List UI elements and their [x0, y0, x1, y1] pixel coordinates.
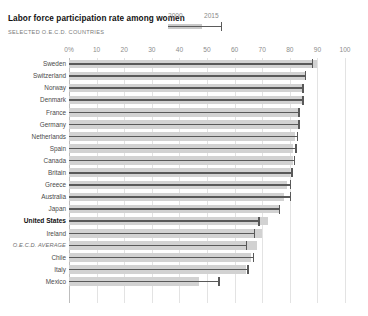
- marker-2015: [254, 229, 256, 238]
- chart-row: Australia: [0, 191, 368, 203]
- marker-2015: [258, 217, 260, 226]
- marker-2015: [290, 180, 292, 189]
- axis-tick-label-50: 50: [203, 46, 210, 53]
- row-label-britain: Britain: [48, 169, 66, 176]
- row-label-ireland: Ireland: [46, 230, 66, 237]
- marker-2015: [298, 108, 300, 117]
- chart-row: Switzerland: [0, 70, 368, 82]
- line-2015: [69, 184, 290, 186]
- row-label-denmark: Denmark: [40, 96, 66, 103]
- axis-tick-label-40: 40: [176, 46, 183, 53]
- chart-row: United States: [0, 215, 368, 227]
- line-2015: [69, 233, 254, 235]
- axis-tick-label-30: 30: [148, 46, 155, 53]
- marker-2015: [290, 192, 292, 201]
- line-2015: [69, 136, 297, 138]
- marker-2015: [253, 253, 255, 262]
- chart-row: Denmark: [0, 94, 368, 106]
- chart-row: Greece: [0, 179, 368, 191]
- line-2015: [69, 257, 253, 259]
- row-label-germany: Germany: [40, 121, 66, 128]
- chart-row: Spain: [0, 143, 368, 155]
- chart-row: O.E.C.D. AVERAGE: [0, 240, 368, 252]
- chart-row: Norway: [0, 82, 368, 94]
- marker-2015: [297, 132, 299, 141]
- line-2015: [69, 220, 258, 222]
- line-2015: [69, 269, 247, 271]
- x-axis-tick-labels: 0%102030405060708090100: [0, 46, 368, 56]
- line-2015: [69, 160, 294, 162]
- page-title: Labor force participation rate among wom…: [8, 14, 185, 23]
- row-label-united-states: United States: [24, 217, 66, 224]
- marker-2015: [298, 120, 300, 129]
- chart-row: Sweden: [0, 58, 368, 70]
- marker-2015: [302, 84, 304, 93]
- chart-row: Netherlands: [0, 131, 368, 143]
- marker-2015: [247, 265, 249, 274]
- line-2015: [69, 112, 298, 114]
- row-label-spain: Spain: [50, 145, 66, 152]
- line-2015: [69, 75, 305, 77]
- axis-tick-label-90: 90: [314, 46, 321, 53]
- chart-row: Britain: [0, 167, 368, 179]
- legend-label-2015: 2015: [204, 12, 219, 19]
- marker-2015: [218, 277, 220, 286]
- axis-tick-label-70: 70: [259, 46, 266, 53]
- marker-2015: [302, 96, 304, 105]
- row-label-greece: Greece: [45, 181, 66, 188]
- line-2015: [69, 208, 279, 210]
- marker-2015: [295, 144, 297, 153]
- chart-row: Ireland: [0, 227, 368, 239]
- line-2015: [69, 63, 312, 65]
- row-label-sweden: Sweden: [43, 60, 66, 67]
- chart-row: Chile: [0, 252, 368, 264]
- legend-swatch-2015-line: [168, 26, 222, 27]
- row-label-canada: Canada: [44, 157, 66, 164]
- line-2015: [69, 87, 302, 89]
- row-label-norway: Norway: [44, 84, 66, 91]
- line-2015: [69, 99, 302, 101]
- legend-swatch-2015-cap: [221, 22, 222, 31]
- row-label-o-e-c-d-average: O.E.C.D. AVERAGE: [13, 242, 66, 248]
- chart-row: Germany: [0, 119, 368, 131]
- row-label-netherlands: Netherlands: [32, 133, 66, 140]
- marker-2015: [246, 241, 248, 250]
- chart-row: Japan: [0, 203, 368, 215]
- line-2015: [69, 172, 291, 174]
- chart-row: Italy: [0, 264, 368, 276]
- marker-2015: [294, 156, 296, 165]
- legend-label-2000: 2000: [168, 12, 183, 19]
- row-label-japan: Japan: [49, 205, 66, 212]
- chart-container: Labor force participation rate among wom…: [0, 0, 368, 316]
- line-2015: [69, 196, 290, 198]
- marker-2015: [291, 168, 293, 177]
- chart-row: France: [0, 106, 368, 118]
- marker-2015: [312, 59, 314, 68]
- line-2015: [69, 148, 295, 150]
- row-label-australia: Australia: [41, 193, 66, 200]
- line-2015: [69, 281, 218, 283]
- row-label-italy: Italy: [54, 266, 66, 273]
- axis-tick-label-10: 10: [93, 46, 100, 53]
- chart-subtitle: SELECTED O.E.C.D. COUNTRIES: [8, 29, 104, 35]
- chart-legend: 2000 2015: [168, 12, 278, 34]
- line-2015: [69, 245, 246, 247]
- line-2015: [69, 124, 298, 126]
- marker-2015: [279, 205, 281, 214]
- axis-tick-label-80: 80: [286, 46, 293, 53]
- axis-tick-label-60: 60: [231, 46, 238, 53]
- axis-tick-label-0: 0%: [64, 46, 74, 53]
- row-label-switzerland: Switzerland: [33, 72, 66, 79]
- chart-plot-area: SwedenSwitzerlandNorwayDenmarkFranceGerm…: [0, 58, 368, 308]
- axis-tick-label-20: 20: [121, 46, 128, 53]
- chart-row: Canada: [0, 155, 368, 167]
- row-label-chile: Chile: [51, 254, 66, 261]
- marker-2015: [305, 71, 307, 80]
- axis-tick-label-100: 100: [339, 46, 350, 53]
- row-label-mexico: Mexico: [46, 278, 66, 285]
- row-label-france: France: [46, 109, 66, 116]
- chart-row: Mexico: [0, 276, 368, 288]
